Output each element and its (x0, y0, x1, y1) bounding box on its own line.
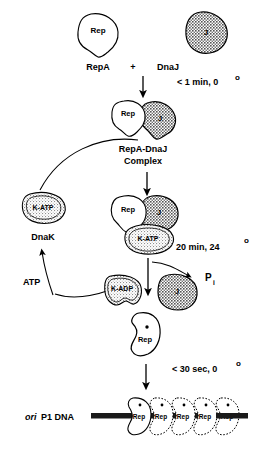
dna-name-label: P1 DNA (41, 412, 75, 422)
phosphate-label: P (205, 272, 212, 283)
bound-rep-label-3: Rep (177, 413, 189, 421)
katp-blob-label: K-ATP (33, 204, 54, 211)
released-dnaj-label: J (175, 287, 179, 296)
dnak-name-label: DnaK (31, 232, 55, 242)
bound-rep-label-2: Rep (155, 413, 167, 421)
arc-kadp-to-atp (55, 290, 110, 297)
ori-italic-label: ori (25, 412, 37, 422)
repa-dnaj-complex-group[interactable]: J Rep (112, 101, 176, 140)
dna-bar (91, 413, 216, 419)
pathway-diagram: Rep J RepA + DnaJ < 1 min, 0 o J Rep Rep… (0, 0, 269, 450)
kadp-blob-label: K-ADP (111, 285, 133, 292)
bound-rep-label-4: Rep (199, 413, 211, 421)
activation-mark-dot-4 (205, 404, 208, 407)
dnaj-blob-label: J (204, 28, 208, 37)
complex-name-line2: Complex (124, 156, 162, 166)
repa-blob-shape (78, 14, 118, 58)
dnaj-name-label: DnaJ (157, 62, 179, 72)
complex-rep-label: Rep (121, 109, 136, 118)
condition-step4-label: < 30 sec, 0 (172, 364, 217, 374)
condition-step4-degree: o (236, 359, 241, 368)
ternary-rep-label: Rep (121, 205, 136, 214)
activated-rep-group[interactable]: Rep (131, 313, 160, 356)
phosphate-subscript: i (213, 279, 215, 286)
complex-name-line1: RepA-DnaJ (119, 144, 168, 154)
activated-rep-label: Rep (138, 335, 153, 344)
condition-step1-degree: o (235, 73, 240, 82)
dnaj-blob-group[interactable]: J (186, 12, 227, 53)
ternary-dnaj-label: J (157, 208, 161, 217)
released-dnaj-group[interactable]: J (158, 274, 197, 310)
activation-mark-dot-1 (139, 404, 142, 407)
repa-blob-group[interactable]: Rep (78, 14, 118, 58)
repa-blob-label: Rep (90, 26, 105, 35)
complex-dnaj-label: J (158, 114, 162, 123)
kadp-blob-group[interactable]: K-ADP (105, 275, 142, 305)
activation-mark-dot-3 (183, 404, 186, 407)
complex-rep-blob (112, 101, 145, 137)
bound-rep-label-1: Rep (133, 413, 145, 421)
repa-name-label: RepA (86, 62, 110, 72)
plus-sign-label: + (130, 62, 135, 72)
dna-bar-right (216, 413, 248, 419)
atp-label: ATP (23, 277, 40, 287)
condition-step3-degree: o (244, 236, 249, 245)
activation-mark-dot-5 (227, 404, 230, 407)
arrow-to-phosphate (152, 262, 189, 276)
figure-canvas: Rep J RepA + DnaJ < 1 min, 0 o J Rep Rep… (0, 0, 269, 450)
katp-blob-group[interactable]: K-ATP (22, 192, 65, 223)
condition-step1-label: < 1 min, 0 (177, 77, 218, 87)
ternary-complex-group[interactable]: J Rep K-ATP (111, 196, 178, 254)
activation-mark-dot (145, 325, 148, 328)
arrow-atp-to-dnak (42, 252, 53, 295)
activation-mark-dot-2 (161, 404, 164, 407)
ternary-katp-label: K-ATP (138, 235, 159, 242)
condition-step3-label: 20 min, 24 (176, 242, 220, 252)
